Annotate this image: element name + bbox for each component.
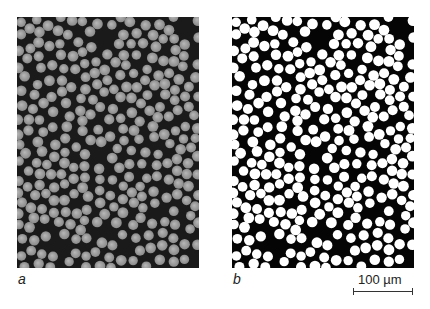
micrograph-panel-a	[17, 17, 199, 268]
panel-label-a: a	[18, 272, 26, 286]
micrograph-image-binarized	[232, 17, 414, 268]
micrograph-image-grayscale	[17, 17, 199, 268]
micrograph-panel-b	[232, 17, 414, 268]
scale-bar-label: 100 µm	[358, 273, 402, 286]
scale-bar	[353, 291, 413, 292]
panel-label-b: b	[233, 272, 241, 286]
